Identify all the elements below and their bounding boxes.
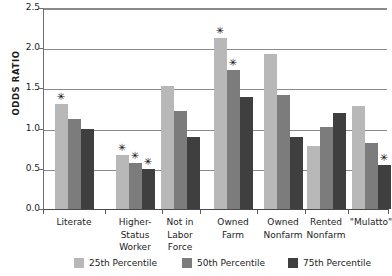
x-tick-mark — [162, 209, 163, 214]
legend-swatch — [74, 258, 84, 268]
x-tick-label: "Mulatto" — [340, 216, 392, 229]
y-tick-mark — [39, 48, 43, 49]
y-tick-label: 1.0 — [10, 123, 40, 133]
bar — [116, 155, 129, 209]
bar — [352, 106, 365, 209]
chart-legend: 25th Percentile50th Percentile75th Perce… — [0, 256, 392, 272]
bar — [320, 127, 333, 209]
bar — [214, 38, 227, 209]
bar — [264, 54, 277, 209]
y-tick-label: 2.0 — [10, 42, 40, 52]
significance-asterisk: ✳ — [142, 158, 155, 166]
x-tick-label: Literate — [43, 216, 105, 229]
y-tick-label: 1.5 — [10, 82, 40, 92]
legend-label: 50th Percentile — [197, 258, 265, 268]
significance-asterisk: ✳ — [214, 27, 227, 35]
chart-figure: ODDS RATIO 0.00.51.01.52.02.5 LiterateHi… — [0, 0, 392, 276]
significance-asterisk: ✳ — [378, 154, 391, 162]
significance-asterisk: ✳ — [129, 152, 142, 160]
x-tick-mark — [348, 209, 349, 214]
x-tick-mark — [388, 209, 389, 214]
bar — [365, 143, 378, 209]
legend-swatch — [288, 258, 298, 268]
y-tick-mark — [39, 88, 43, 89]
significance-asterisk: ✳ — [55, 93, 68, 101]
bar — [187, 137, 200, 209]
bar — [68, 119, 81, 209]
x-tick-mark — [257, 209, 258, 214]
x-tick-mark — [200, 209, 201, 214]
x-tick-mark — [43, 209, 44, 214]
bar — [227, 70, 240, 209]
gridline — [44, 9, 387, 10]
bar — [142, 169, 155, 209]
bar — [240, 97, 253, 209]
y-tick-label: 0.5 — [10, 163, 40, 173]
legend-label: 75th Percentile — [303, 258, 371, 268]
bar — [129, 163, 142, 209]
x-tick-mark — [305, 209, 306, 214]
legend-item[interactable]: 25th Percentile — [74, 256, 157, 270]
bar — [81, 129, 94, 209]
y-tick-label: 0.0 — [10, 203, 40, 213]
legend-label: 25th Percentile — [89, 258, 157, 268]
legend-swatch — [182, 258, 192, 268]
legend-item[interactable]: 75th Percentile — [288, 256, 371, 270]
bar — [161, 86, 174, 209]
y-tick-mark — [39, 169, 43, 170]
bar — [307, 146, 320, 209]
x-tick-mark — [105, 209, 106, 214]
significance-asterisk: ✳ — [227, 59, 240, 67]
bar — [378, 165, 391, 209]
bar — [174, 111, 187, 209]
significance-asterisk: ✳ — [116, 144, 129, 152]
y-tick-label: 2.5 — [10, 2, 40, 12]
bar — [277, 95, 290, 209]
bar — [290, 137, 303, 209]
x-axis-line — [43, 209, 388, 210]
bar — [55, 104, 68, 209]
y-tick-mark — [39, 129, 43, 130]
legend-item[interactable]: 50th Percentile — [182, 256, 265, 270]
y-tick-mark — [39, 8, 43, 9]
bar — [333, 113, 346, 209]
